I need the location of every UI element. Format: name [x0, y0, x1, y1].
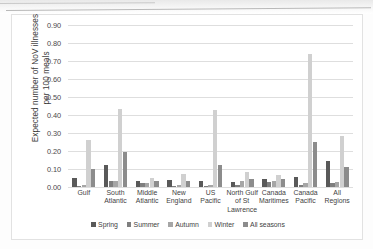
bar-group	[290, 25, 322, 187]
bar	[294, 177, 298, 187]
bar	[235, 185, 239, 187]
bar	[104, 165, 108, 187]
bar	[330, 183, 334, 187]
bar	[213, 110, 217, 187]
bar	[118, 109, 122, 187]
x-axis-category-label: Gulf	[68, 189, 100, 197]
bar-group	[321, 25, 353, 187]
bar-series-layer	[68, 25, 353, 187]
bar	[335, 182, 339, 187]
bar	[267, 182, 271, 187]
bar	[86, 140, 90, 187]
bar-group	[131, 25, 163, 187]
x-axis-category-label: US Pacific	[195, 189, 227, 206]
chart-legend: SpringSummerAutumnWinterAll seasons	[12, 221, 364, 228]
bar	[177, 185, 181, 187]
legend-item: All seasons	[243, 221, 285, 228]
legend-swatch-icon	[208, 222, 212, 226]
bar	[136, 181, 140, 187]
bar	[113, 181, 117, 187]
legend-label: All seasons	[250, 221, 285, 228]
bar	[299, 185, 303, 187]
legend-item: Autumn	[168, 221, 198, 228]
bar	[231, 182, 235, 187]
x-axis-category-label: Canada Maritimes	[258, 189, 290, 206]
bar	[245, 172, 249, 187]
legend-item: Winter	[208, 221, 235, 228]
x-axis-category-label: Canada Pacific	[290, 189, 322, 206]
legend-swatch-icon	[243, 222, 247, 226]
legend-label: Winter	[215, 221, 235, 228]
bar	[91, 169, 95, 187]
bar	[249, 179, 253, 187]
bar	[340, 136, 344, 187]
bar	[72, 178, 76, 187]
y-axis-tick-label: 0.20	[21, 147, 61, 156]
x-axis-category-label: Middle Atlantic	[131, 189, 163, 206]
bar	[109, 181, 113, 187]
bar	[123, 152, 127, 187]
y-axis-tick-label: 0.50	[21, 93, 61, 102]
bar-group	[226, 25, 258, 187]
y-axis-tick-label: 0.40	[21, 111, 61, 120]
bar	[313, 142, 317, 187]
bar	[344, 167, 348, 187]
bar-group	[163, 25, 195, 187]
bar	[272, 181, 276, 187]
bar	[77, 186, 81, 187]
bar	[199, 181, 203, 187]
plot-area: 0.000.100.200.300.400.500.600.700.800.90	[68, 25, 353, 187]
bar	[262, 179, 266, 187]
bar	[145, 183, 149, 187]
bar	[150, 178, 154, 187]
legend-swatch-icon	[127, 222, 131, 226]
bar	[218, 165, 222, 187]
bar	[208, 185, 212, 187]
legend-label: Summer	[134, 221, 160, 228]
legend-label: Autumn	[175, 221, 198, 228]
bar-group	[68, 25, 100, 187]
gridline	[68, 187, 353, 188]
bar	[154, 181, 158, 187]
y-axis-tick-label: 0.10	[21, 165, 61, 174]
bar	[281, 179, 285, 187]
legend-item: Spring	[91, 221, 118, 228]
legend-swatch-icon	[168, 222, 172, 226]
bar	[167, 180, 171, 187]
legend-swatch-icon	[91, 222, 95, 226]
x-axis-category-label: North Gulf of St Lawrence	[226, 189, 258, 214]
x-axis-category-labels: GulfSouth AtlanticMiddle AtlanticNew Eng…	[68, 189, 353, 223]
bar-group	[258, 25, 290, 187]
bar	[181, 174, 185, 187]
bar	[140, 183, 144, 187]
bar	[326, 161, 330, 187]
legend-label: Spring	[98, 221, 118, 228]
x-axis-category-label: South Atlantic	[100, 189, 132, 206]
bar-group	[195, 25, 227, 187]
x-axis-category-label: All Regions	[321, 189, 353, 206]
x-axis-category-label: New England	[163, 189, 195, 206]
bar	[186, 181, 190, 187]
y-axis-tick-label: 0.00	[21, 183, 61, 192]
bar	[308, 54, 312, 187]
bar	[240, 181, 244, 187]
bar	[303, 183, 307, 188]
y-axis-tick-label: 0.30	[21, 129, 61, 138]
y-axis-tick-label: 0.80	[21, 39, 61, 48]
scanned-page: Expected number of NoV illnesses per 100…	[0, 0, 373, 249]
bar	[276, 175, 280, 187]
bar-group	[100, 25, 132, 187]
bar	[82, 185, 86, 187]
bar	[172, 186, 176, 187]
bar	[204, 186, 208, 187]
legend-item: Summer	[127, 221, 160, 228]
y-axis-tick-label: 0.70	[21, 57, 61, 66]
y-axis-tick-label: 0.90	[21, 21, 61, 30]
chart-container: Expected number of NoV illnesses per 100…	[11, 14, 363, 240]
y-axis-tick-label: 0.60	[21, 75, 61, 84]
